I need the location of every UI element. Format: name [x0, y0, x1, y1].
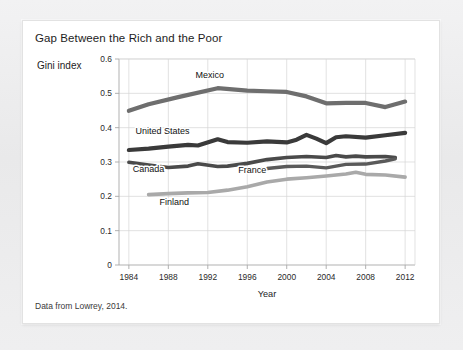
series-label-united-states: United States [135, 126, 190, 136]
y-tick-label: 0 [107, 260, 112, 270]
y-tick-label: 0.6 [100, 54, 112, 64]
x-tick-label: 2004 [317, 272, 336, 282]
line-chart: 00.10.20.30.40.50.6198419881992199620002… [23, 21, 441, 325]
y-tick-label: 0.4 [100, 123, 112, 133]
x-tick-label: 2008 [356, 272, 375, 282]
series-label-finland: Finland [159, 197, 189, 207]
series-label-mexico: Mexico [196, 70, 225, 80]
y-tick-label: 0.1 [100, 226, 112, 236]
series-line-mexico [129, 88, 405, 111]
x-tick-label: 1984 [120, 272, 139, 282]
x-tick-label: 2012 [396, 272, 415, 282]
y-tick-label: 0.3 [100, 157, 112, 167]
y-tick-label: 0.5 [100, 88, 112, 98]
x-tick-label: 1996 [238, 272, 257, 282]
x-tick-label: 1988 [159, 272, 178, 282]
y-tick-label: 0.2 [100, 191, 112, 201]
x-tick-label: 2000 [277, 272, 296, 282]
series-label-canada: Canada [133, 164, 165, 174]
chart-plot-area: 00.10.20.30.40.50.6198419881992199620002… [23, 21, 441, 325]
x-axis-title: Year [258, 289, 277, 299]
figure-caption: Data from Lowrey, 2014. [35, 301, 127, 311]
figure-card: Gap Between the Rich and the Poor Gini i… [22, 20, 440, 324]
x-tick-label: 1992 [198, 272, 217, 282]
series-line-finland [149, 172, 406, 194]
series-label-france: France [238, 165, 266, 175]
